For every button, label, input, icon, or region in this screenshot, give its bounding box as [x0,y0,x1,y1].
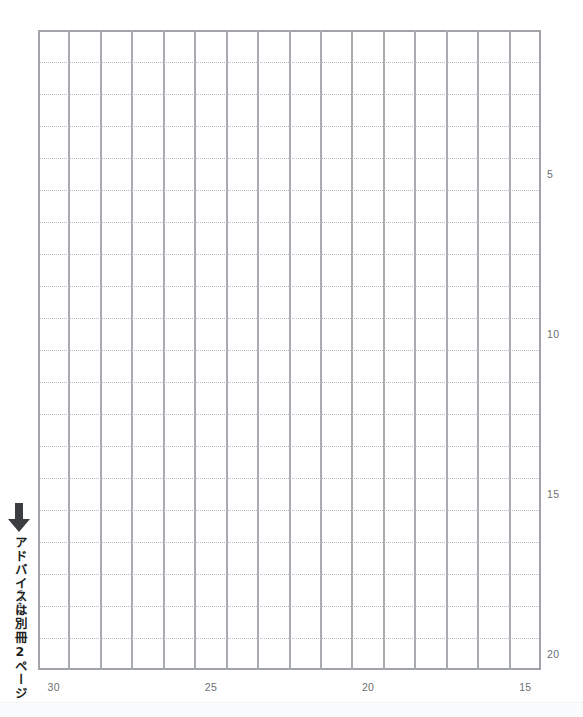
grid-row-line [40,574,539,575]
grid-row-line [40,286,539,287]
advice-annotation-ruby: べっさつ [16,589,22,615]
grid-row-line [40,126,539,127]
grid-row-line [40,446,539,447]
column-marker-label: 15 [505,681,545,693]
grid-row-line [40,318,539,319]
column-marker-label: 30 [34,681,74,693]
column-marker-label: 20 [348,681,388,693]
grid-row-line [40,190,539,191]
column-marker-label: 25 [191,681,231,693]
grid-row-line [40,94,539,95]
grid-row-line [40,254,539,255]
grid-row-line [40,414,539,415]
manuscript-grid[interactable] [38,30,541,670]
grid-row-line [40,606,539,607]
advice-annotation: アドバイスは別冊2ページ べっさつ [2,503,36,700]
down-arrow-icon [7,503,31,533]
row-marker-label: 15 [547,488,577,500]
page-bottom-edge [0,702,583,717]
grid-row-line [40,222,539,223]
grid-row-line [40,478,539,479]
grid-row-line [40,350,539,351]
grid-row-line [40,62,539,63]
row-marker-label: 20 [547,648,577,660]
grid-row-line [40,638,539,639]
grid-row-line [40,158,539,159]
grid-row-line [40,510,539,511]
advice-annotation-text: アドバイスは別冊2ページ [13,536,26,700]
grid-row-line [40,382,539,383]
row-marker-label: 10 [547,328,577,340]
row-marker-label: 5 [547,168,577,180]
grid-row-line [40,542,539,543]
